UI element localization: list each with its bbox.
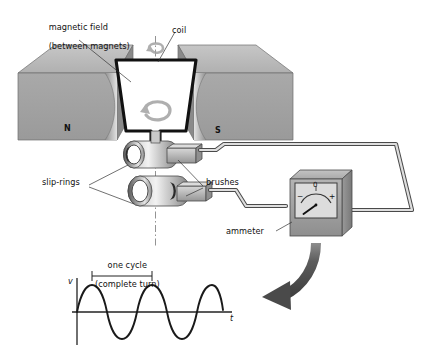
label-one-cycle: one cycle (complete turn) xyxy=(78,251,166,299)
rotation-arrow-upper xyxy=(146,44,163,53)
label-brushes: brushes xyxy=(206,178,239,188)
ammeter[interactable] xyxy=(290,170,352,236)
arrow-to-graph xyxy=(262,243,316,310)
ammeter-zero-label: 0 xyxy=(313,181,318,191)
graph-x-axis-label: t xyxy=(230,314,233,324)
label-pole-south: S xyxy=(215,126,221,136)
wire-lower-circuit xyxy=(210,190,286,206)
brush-upper xyxy=(167,144,202,163)
graph-y-axis-label: v xyxy=(68,277,73,287)
figure-canvas: magnetic field (between magnets) coil N … xyxy=(0,0,427,354)
ammeter-minus-label: − xyxy=(297,192,303,202)
leader-coil xyxy=(158,32,175,62)
label-magnetic-field: magnetic field (between magnets) xyxy=(38,13,130,61)
leader-slip-ring-upper xyxy=(89,165,128,185)
leader-slip-ring-lower xyxy=(89,187,134,204)
label-pole-north: N xyxy=(64,124,71,134)
label-slip-rings: slip-rings xyxy=(42,178,80,188)
shaft-upper xyxy=(151,131,160,143)
label-coil: coil xyxy=(172,26,186,36)
label-ammeter: ammeter xyxy=(226,227,264,237)
ammeter-plus-label: + xyxy=(329,192,335,202)
